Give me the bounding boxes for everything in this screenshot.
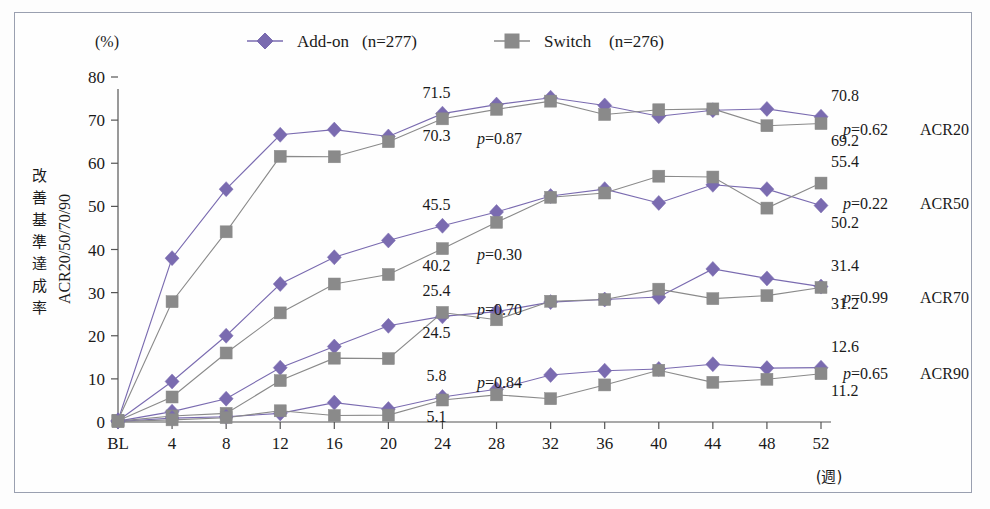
annotation-acr70-switch-wk24: 25.4 bbox=[422, 282, 450, 299]
data-point-acr20-addon-16[interactable] bbox=[327, 122, 341, 137]
data-point-acr50-switch-36[interactable] bbox=[599, 187, 611, 199]
data-point-acr70-switch-44[interactable] bbox=[707, 293, 719, 305]
y-tick-label-70: 70 bbox=[88, 111, 105, 130]
inline-pvalue-acr50: p=0.30 bbox=[476, 246, 522, 264]
x-tick-label-BL: BL bbox=[107, 434, 129, 453]
series-line-acr20-add-on bbox=[118, 98, 821, 421]
data-point-acr50-switch-16[interactable] bbox=[328, 278, 340, 290]
data-point-acr20-switch-4[interactable] bbox=[166, 296, 178, 308]
data-point-acr90-switch-52[interactable] bbox=[815, 368, 827, 380]
data-point-acr20-switch-16[interactable] bbox=[328, 151, 340, 163]
data-point-acr90-addon-32[interactable] bbox=[544, 367, 558, 382]
data-point-acr90-switch-40[interactable] bbox=[653, 364, 665, 376]
data-point-acr70-switch-48[interactable] bbox=[761, 290, 773, 302]
data-point-acr50-switch-32[interactable] bbox=[545, 191, 557, 203]
data-point-acr20-switch-48[interactable] bbox=[761, 120, 773, 132]
data-point-acr90-addon-44[interactable] bbox=[706, 357, 720, 372]
x-tick-label-4: 4 bbox=[168, 434, 177, 453]
data-point-acr90-switch-48[interactable] bbox=[761, 373, 773, 385]
annotation-acr50-switch-wk24: 40.2 bbox=[422, 257, 450, 274]
data-point-acr20-switch-32[interactable] bbox=[545, 95, 557, 107]
y-tick-label-10: 10 bbox=[88, 370, 105, 389]
data-point-acr50-switch-12[interactable] bbox=[274, 307, 286, 319]
data-point-acr50-switch-40[interactable] bbox=[653, 170, 665, 182]
data-point-acr70-switch-52[interactable] bbox=[815, 281, 827, 293]
data-point-acr90-addon-16[interactable] bbox=[327, 395, 341, 410]
data-point-acr70-switch-32[interactable] bbox=[545, 295, 557, 307]
data-point-acr90-addon-36[interactable] bbox=[598, 363, 612, 378]
legend-n-switch: (n=276) bbox=[609, 32, 664, 51]
data-point-acr50-switch-20[interactable] bbox=[382, 269, 394, 281]
annotation-acr20-add-on-wk52: 70.8 bbox=[831, 87, 859, 104]
data-point-acr90-switch-44[interactable] bbox=[707, 376, 719, 388]
data-point-acr90-switch-4[interactable] bbox=[166, 414, 178, 426]
y-axis-title-jp-char-0: 改 bbox=[32, 167, 47, 185]
data-point-acr50-addon-4[interactable] bbox=[165, 374, 179, 389]
data-point-acr90-switch-24[interactable] bbox=[436, 394, 448, 406]
data-point-acr90-switch-36[interactable] bbox=[599, 379, 611, 391]
data-point-acr70-addon-20[interactable] bbox=[381, 318, 395, 333]
data-point-acr70-switch-40[interactable] bbox=[653, 283, 665, 295]
annotation-acr50-add-on-wk24: 45.5 bbox=[422, 196, 450, 213]
data-point-acr50-addon-52[interactable] bbox=[814, 198, 828, 213]
data-point-acr50-switch-4[interactable] bbox=[166, 391, 178, 403]
legend-label-add-on: Add-on bbox=[297, 32, 349, 51]
y-tick-label-50: 50 bbox=[88, 197, 105, 216]
right-pvalue-acr90: p=0.65 bbox=[842, 365, 888, 383]
data-point-acr50-switch-28[interactable] bbox=[491, 216, 503, 228]
data-point-acr70-addon-12[interactable] bbox=[273, 360, 287, 375]
data-point-acr70-addon-48[interactable] bbox=[760, 271, 774, 286]
data-point-acr90-switch-32[interactable] bbox=[545, 393, 557, 405]
data-point-acr20-switch-36[interactable] bbox=[599, 109, 611, 121]
annotation-acr50-add-on-wk52: 50.2 bbox=[831, 214, 859, 231]
annotation-acr20-switch-wk24: 70.3 bbox=[422, 127, 450, 144]
data-point-acr70-switch-24[interactable] bbox=[436, 306, 448, 318]
data-point-acr90-switch-16[interactable] bbox=[328, 410, 340, 422]
y-axis-title-jp-char-3: 準 bbox=[32, 233, 47, 251]
data-point-acr50-addon-20[interactable] bbox=[381, 233, 395, 248]
data-point-acr20-switch-44[interactable] bbox=[707, 103, 719, 115]
data-point-acr90-switch-20[interactable] bbox=[382, 409, 394, 421]
data-point-acr50-switch-44[interactable] bbox=[707, 171, 719, 183]
data-point-acr20-switch-20[interactable] bbox=[382, 136, 394, 148]
data-point-acr70-switch-12[interactable] bbox=[274, 375, 286, 387]
data-point-acr20-switch-40[interactable] bbox=[653, 104, 665, 116]
data-point-acr70-switch-36[interactable] bbox=[599, 294, 611, 306]
figure-frame: (%)Add-on(n=277)Switch(n=276)01020304050… bbox=[14, 12, 972, 493]
data-point-acr70-addon-16[interactable] bbox=[327, 339, 341, 354]
data-point-acr20-switch-24[interactable] bbox=[436, 113, 448, 125]
annotation-acr90-add-on-wk52: 12.6 bbox=[831, 338, 859, 355]
data-point-acr90-switch-8[interactable] bbox=[220, 412, 232, 424]
data-point-acr90-switch-BL[interactable] bbox=[112, 416, 124, 428]
x-tick-label-24: 24 bbox=[434, 434, 452, 453]
annotation-acr90-switch-wk24: 5.1 bbox=[426, 408, 446, 425]
data-point-acr50-addon-16[interactable] bbox=[327, 250, 341, 265]
data-point-acr70-addon-44[interactable] bbox=[706, 261, 720, 276]
data-point-acr70-addon-8[interactable] bbox=[219, 391, 233, 406]
figure-page: (%)Add-on(n=277)Switch(n=276)01020304050… bbox=[0, 0, 990, 509]
data-point-acr20-switch-52[interactable] bbox=[815, 118, 827, 130]
y-axis-title-jp-char-2: 基 bbox=[32, 211, 47, 229]
data-point-acr50-switch-8[interactable] bbox=[220, 347, 232, 359]
data-point-acr50-addon-40[interactable] bbox=[652, 195, 666, 210]
data-point-acr20-addon-4[interactable] bbox=[165, 251, 179, 266]
inline-pvalue-acr70: p=0.70 bbox=[476, 301, 522, 319]
data-point-acr90-switch-12[interactable] bbox=[274, 405, 286, 417]
right-group-label-acr50: ACR50 bbox=[920, 195, 969, 212]
y-unit-label: (%) bbox=[95, 33, 119, 51]
data-point-acr50-switch-48[interactable] bbox=[761, 202, 773, 214]
data-point-acr50-switch-52[interactable] bbox=[815, 177, 827, 189]
data-point-acr20-switch-12[interactable] bbox=[274, 150, 286, 162]
y-axis-title-jp-char-6: 率 bbox=[32, 299, 47, 317]
legend-label-switch: Switch bbox=[544, 32, 592, 51]
data-point-acr50-addon-24[interactable] bbox=[435, 218, 449, 233]
data-point-acr20-addon-48[interactable] bbox=[760, 101, 774, 116]
data-point-acr70-switch-20[interactable] bbox=[382, 353, 394, 365]
data-point-acr50-addon-48[interactable] bbox=[760, 182, 774, 197]
x-unit-label: (週) bbox=[816, 468, 843, 486]
data-point-acr50-switch-24[interactable] bbox=[436, 243, 448, 255]
data-point-acr20-switch-28[interactable] bbox=[491, 103, 503, 115]
data-point-acr20-switch-8[interactable] bbox=[220, 226, 232, 238]
data-point-acr70-switch-16[interactable] bbox=[328, 352, 340, 364]
y-tick-label-80: 80 bbox=[88, 68, 105, 87]
